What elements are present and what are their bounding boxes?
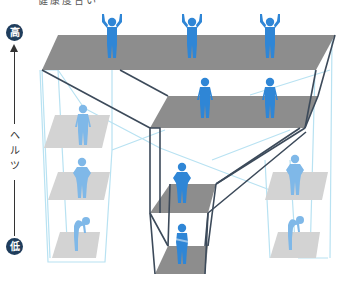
middle-platform [150, 96, 318, 128]
building-diagram [0, 0, 339, 282]
right-lower-platform [270, 232, 320, 258]
